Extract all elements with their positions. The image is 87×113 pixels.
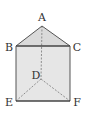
label-c: C (73, 41, 81, 54)
label-e: E (5, 96, 13, 109)
label-f: F (73, 96, 81, 109)
label-b: B (5, 41, 13, 54)
prism-figure: A B C D E F (0, 0, 87, 113)
prism-diagram: A B C D E F (0, 0, 87, 113)
face-abc (16, 26, 70, 46)
label-d: D (32, 69, 41, 82)
label-a: A (37, 11, 47, 24)
face-bcfe (16, 46, 70, 101)
